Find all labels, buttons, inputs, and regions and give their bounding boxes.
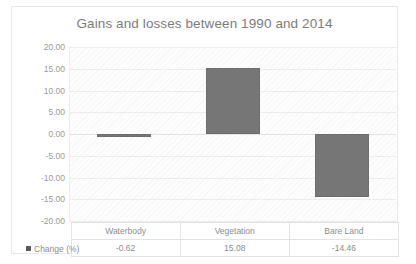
table-value-cell: -0.62	[71, 240, 180, 257]
legend-label: Change (%)	[34, 243, 79, 253]
table-value-cell: 15.08	[180, 240, 289, 257]
table-row-headers: WaterbodyVegetationBare Land	[23, 223, 399, 240]
table-value-cell: -14.46	[289, 240, 398, 257]
plot-region: 20.0015.0010.005.000.00-5.00-10.00-15.00…	[69, 47, 396, 221]
y-axis-tick-label: 5.00	[17, 107, 65, 117]
y-axis-tick-label: 15.00	[17, 64, 65, 74]
y-axis-tick-label: 0.00	[17, 129, 65, 139]
bar-vegetation[interactable]	[206, 68, 260, 134]
y-axis-tick-label: -10.00	[17, 173, 65, 183]
table-header-cell: Vegetation	[180, 223, 289, 240]
chart-data-table: WaterbodyVegetationBare Land Change (%) …	[23, 222, 399, 257]
chart-title: Gains and losses between 1990 and 2014	[12, 16, 397, 31]
table-row-values: Change (%) -0.6215.08-14.46	[23, 240, 399, 257]
y-axis-tick-label: 20.00	[17, 42, 65, 52]
bar-bare-land[interactable]	[315, 134, 369, 197]
bar-waterbody[interactable]	[97, 134, 151, 137]
y-axis-tick-label: 10.00	[17, 86, 65, 96]
chart-container: Gains and losses between 1990 and 2014 2…	[11, 6, 398, 254]
table-header-cell: Bare Land	[289, 223, 398, 240]
y-axis-tick-label: -15.00	[17, 194, 65, 204]
gridline	[69, 199, 396, 200]
legend-color-swatch-icon	[26, 246, 31, 251]
y-axis-tick-label: -5.00	[17, 151, 65, 161]
table-header-cell: Waterbody	[71, 223, 180, 240]
legend-entry: Change (%)	[23, 240, 71, 257]
gridline	[69, 47, 396, 48]
table-corner-cell	[23, 223, 71, 240]
